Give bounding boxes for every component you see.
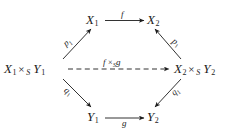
node-middle-left-x-base: X [4, 61, 12, 76]
fiber-product-base-subscript-right: S [196, 68, 200, 77]
arrow-label-f-top-base: f [121, 9, 124, 19]
node-top-right-subscript: 2 [155, 19, 160, 28]
node-top-left-base: X [86, 12, 94, 27]
node-top-right-base: X [147, 12, 155, 27]
fiber-product-base-subscript: S [26, 68, 30, 77]
node-bottom-left: Y1 [87, 110, 99, 125]
fiber-product-times-symbol: × [17, 63, 26, 75]
node-bottom-right-subscript: 2 [154, 116, 159, 125]
arrow-label-f-base: f [103, 57, 106, 67]
arrow-label-g-bottom: g [122, 119, 127, 128]
arrow-label-g-base: g [116, 57, 121, 67]
arrow-label-f-times-s-g: f×Sg [103, 58, 121, 68]
node-middle-left-y-base: Y [33, 61, 40, 76]
node-middle-right-y-base: Y [203, 61, 210, 76]
fiber-product-times-symbol-right: × [187, 63, 196, 75]
node-top-right: X2 [147, 13, 160, 28]
commutative-diagram: X1 X2 X1×SY1 X2×SY2 Y1 Y2 f p1 p1 q1 q1 … [0, 0, 239, 132]
node-middle-right: X2×SY2 [174, 62, 215, 77]
node-middle-right-y-subscript: 2 [211, 68, 216, 77]
arrow-label-f-top: f [121, 10, 124, 19]
node-middle-right-x-base: X [174, 61, 182, 76]
node-bottom-left-subscript: 1 [94, 116, 99, 125]
arrow-label-g-bottom-base: g [122, 118, 127, 128]
node-bottom-right: Y2 [147, 110, 159, 125]
node-middle-left: X1×SY1 [4, 62, 45, 77]
node-top-left: X1 [86, 13, 99, 28]
node-top-left-subscript: 1 [94, 19, 99, 28]
node-middle-left-y-subscript: 1 [41, 68, 46, 77]
